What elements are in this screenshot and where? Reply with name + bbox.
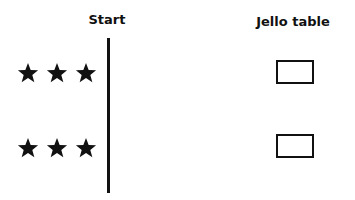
jello-table-label: Jello table	[256, 14, 330, 29]
jello-box-2	[276, 134, 314, 158]
star-icon	[46, 137, 68, 159]
start-line	[107, 38, 110, 193]
start-label: Start	[89, 12, 126, 27]
jello-box-1	[276, 60, 314, 84]
star-row-1	[17, 62, 97, 84]
star-icon	[46, 62, 68, 84]
star-icon	[75, 62, 97, 84]
star-row-2	[17, 137, 97, 159]
star-icon	[75, 137, 97, 159]
star-icon	[17, 62, 39, 84]
star-icon	[17, 137, 39, 159]
